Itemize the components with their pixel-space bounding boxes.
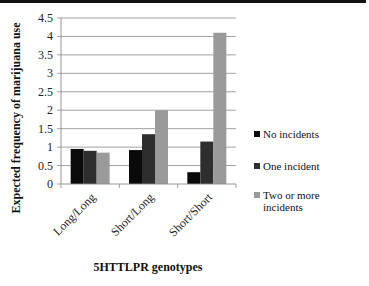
- legend-label: One incident: [263, 160, 320, 172]
- x-tick-labels: Long/LongShort/LongShort/Short: [50, 190, 215, 240]
- bar-two-or-more-incidents-short-short: [213, 33, 226, 184]
- y-tick-label: 0.5: [38, 159, 53, 173]
- bar-two-or-more-incidents-long-long: [97, 153, 110, 184]
- bar-one-incident-long-long: [84, 151, 97, 184]
- legend-label: No incidents: [263, 128, 319, 140]
- bar-no-incidents-long-long: [71, 149, 84, 184]
- y-axis-title: Expected frequency of marijuana use: [9, 22, 23, 214]
- bar-two-or-more-incidents-short-long: [155, 110, 168, 184]
- y-tick-label: 0: [47, 177, 53, 191]
- legend-swatch-one-incident: [254, 163, 260, 169]
- y-tick-label: 2.5: [38, 85, 53, 99]
- bar-one-incident-short-short: [200, 142, 213, 184]
- bar-one-incident-short-long: [142, 134, 155, 184]
- y-tick-label: 4: [47, 29, 53, 43]
- legend-item-one-incident: One incident: [254, 160, 320, 172]
- y-tick-label: 1: [47, 140, 53, 154]
- legend-item-two-or-more-incidents: Two or more incidents: [254, 189, 344, 213]
- legend-swatch-no-incidents: [254, 131, 260, 137]
- legend-item-no-incidents: No incidents: [254, 128, 319, 140]
- y-tick-label: 3.5: [38, 48, 53, 62]
- bar-no-incidents-short-long: [129, 150, 142, 184]
- x-tick-label: Short/Short: [166, 190, 216, 240]
- x-tick-label: Short/Long: [108, 190, 157, 239]
- y-tick-label: 3: [47, 66, 53, 80]
- bars: [71, 33, 227, 184]
- legend-label: Two or more incidents: [263, 189, 344, 213]
- legend-swatch-two-or-more: [254, 192, 260, 198]
- x-axis-title: 5HTTLPR genotypes: [93, 260, 202, 274]
- bar-no-incidents-short-short: [187, 172, 200, 184]
- x-tick-label: Long/Long: [50, 190, 98, 238]
- y-tick-labels: 00.511.522.533.544.5: [38, 11, 53, 191]
- y-tick-label: 1.5: [38, 122, 53, 136]
- bar-chart: 00.511.522.533.544.5 Long/LongShort/Long…: [0, 0, 369, 286]
- y-tick-label: 2: [47, 103, 53, 117]
- y-tick-label: 4.5: [38, 11, 53, 25]
